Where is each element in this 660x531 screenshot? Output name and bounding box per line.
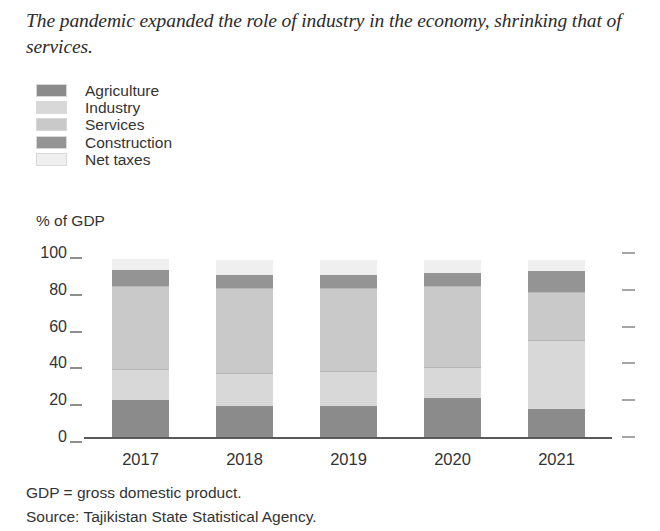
plot-area: 02040608010020172018201920202021 [88,253,608,437]
bar-segment-industry[interactable] [216,373,273,406]
y-axis-tick-mark-right [622,399,635,401]
legend-label: Services [85,116,144,133]
bar-2018[interactable]: 2018 [216,260,273,437]
bar-segment-net-taxes[interactable] [112,259,169,270]
y-axis-tick-mark [70,331,82,333]
bar-segment-construction[interactable] [320,275,377,288]
y-axis-tick-mark-right [622,436,635,438]
legend-label: Net taxes [85,151,150,168]
bar-segment-net-taxes[interactable] [424,260,481,273]
y-axis-tick: 80 [27,281,88,299]
bar-segment-construction[interactable] [216,275,273,288]
bar-segment-construction[interactable] [424,273,481,286]
legend-label: Construction [85,134,172,151]
bar-segment-services[interactable] [424,286,481,367]
bar-segment-construction[interactable] [528,271,585,291]
legend-item[interactable]: Construction [36,134,336,151]
y-axis-tick-label: 20 [27,391,67,409]
legend-swatch-icon [36,84,67,97]
y-axis-tick: 100 [27,244,88,262]
y-axis-tick-label: 100 [27,244,67,262]
legend-label: Industry [85,99,140,116]
x-axis-label: 2020 [434,450,471,469]
bar-segment-net-taxes[interactable] [216,260,273,275]
bar-segment-construction[interactable] [112,270,169,287]
bar-segment-services[interactable] [216,288,273,373]
bar-segment-industry[interactable] [320,371,377,406]
y-axis-tick-mark [70,404,82,406]
y-axis-tick: 40 [27,354,88,372]
x-axis-label: 2017 [122,450,159,469]
bar-segment-services[interactable] [528,292,585,340]
y-axis-tick-label: 40 [27,354,67,372]
y-axis-tick-label: 80 [27,281,67,299]
bar-2021[interactable]: 2021 [528,260,585,437]
legend-swatch-icon [36,101,67,114]
legend-item[interactable]: Net taxes [36,151,336,168]
bar-segment-net-taxes[interactable] [528,260,585,271]
y-axis-tick-label: 60 [27,318,67,336]
y-axis-tick: 0 [27,428,88,446]
chart-title: The pandemic expanded the role of indust… [26,8,638,60]
bar-segment-net-taxes[interactable] [320,260,377,275]
bar-segment-industry[interactable] [112,369,169,400]
bar-segment-services[interactable] [320,288,377,371]
bar-2017[interactable]: 2017 [112,259,169,437]
y-axis-unit-label: % of GDP [36,212,105,230]
bar-2019[interactable]: 2019 [320,260,377,437]
chart-legend: AgricultureIndustryServicesConstructionN… [36,82,336,168]
chart-footnotes: GDP = gross domestic product.Source: Taj… [26,481,317,529]
y-axis-tick: 60 [27,318,88,336]
footnote-source: Source: Tajikistan State Statistical Age… [26,505,317,529]
bar-2020[interactable]: 2020 [424,260,481,437]
bar-segment-services[interactable] [112,286,169,369]
legend-label: Agriculture [85,82,159,99]
footnote-abbreviation: GDP = gross domestic product. [26,481,317,505]
legend-swatch-icon [36,136,67,149]
legend-swatch-icon [36,153,67,166]
bar-segment-agriculture[interactable] [216,406,273,437]
legend-item[interactable]: Services [36,116,336,133]
legend-swatch-icon [36,118,67,131]
y-axis-tick-mark-right [622,289,635,291]
x-axis-label: 2019 [330,450,367,469]
y-axis-tick-mark-right [622,326,635,328]
bar-segment-industry[interactable] [528,340,585,410]
y-axis-tick-mark [70,294,82,296]
y-axis-tick-mark [70,367,82,369]
y-axis-tick-mark-right [622,252,635,254]
bar-segment-agriculture[interactable] [112,400,169,437]
y-axis-tick: 20 [27,391,88,409]
y-axis-tick-mark-right [622,362,635,364]
x-axis-label: 2021 [538,450,575,469]
bar-segment-agriculture[interactable] [528,409,585,437]
y-axis-tick-mark [70,441,82,443]
legend-item[interactable]: Industry [36,99,336,116]
bar-segment-industry[interactable] [424,367,481,398]
legend-item[interactable]: Agriculture [36,82,336,99]
y-axis-tick-label: 0 [27,428,67,446]
bar-segment-agriculture[interactable] [320,406,377,437]
y-axis-tick-mark [70,257,82,259]
bar-segment-agriculture[interactable] [424,398,481,437]
x-axis-label: 2018 [226,450,263,469]
